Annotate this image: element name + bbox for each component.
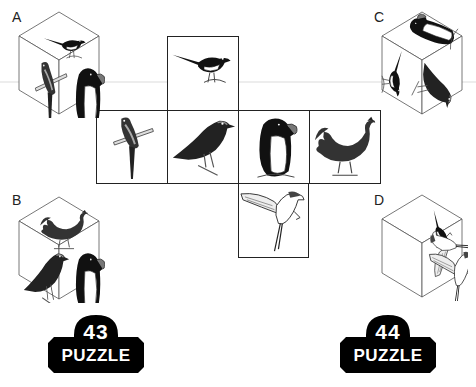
puzzle-number: 43 <box>46 320 146 344</box>
puzzle-number: 44 <box>338 320 438 344</box>
net-cell-middle-1 <box>96 110 168 184</box>
net-cell-top <box>167 36 239 111</box>
net-cell-middle-2 <box>167 110 239 184</box>
cube-option-a[interactable] <box>15 10 105 118</box>
cube-option-d[interactable] <box>378 193 468 301</box>
net-cell-middle-3 <box>238 110 310 184</box>
cube-option-b[interactable] <box>15 195 105 303</box>
puzzle-badge-44: 44 PUZZLE <box>338 313 438 375</box>
penguin-icon <box>74 253 104 303</box>
magpie-icon <box>168 37 238 110</box>
puzzle-badge-43: 43 PUZZLE <box>46 313 146 375</box>
parrot-icon <box>97 111 167 183</box>
penguin-icon <box>239 111 309 183</box>
cube-option-c[interactable] <box>378 10 468 118</box>
rooster-icon <box>310 111 380 183</box>
puzzle-word: PUZZLE <box>338 346 438 366</box>
swallow-icon <box>239 184 308 257</box>
net-cell-middle-4 <box>309 110 381 184</box>
penguin-icon <box>74 68 104 118</box>
crow-icon <box>168 111 238 183</box>
puzzle-word: PUZZLE <box>46 346 146 366</box>
net-cell-bottom <box>238 183 309 258</box>
